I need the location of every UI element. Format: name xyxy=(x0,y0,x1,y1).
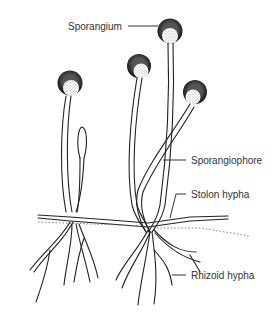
leader-stolon xyxy=(170,194,186,218)
sporangium-top xyxy=(158,19,183,45)
sporangium-left xyxy=(58,71,83,97)
label-stolon-hypha: Stolon hypha xyxy=(191,189,250,200)
label-sporangiophore: Sporangiophore xyxy=(191,155,263,166)
sporangium-middle xyxy=(127,54,151,79)
label-sporangium: Sporangium xyxy=(68,21,122,32)
sporangium-right xyxy=(183,80,207,105)
sporangiophore-stalks xyxy=(62,43,195,232)
label-rhizoid-hypha: Rhizoid hypha xyxy=(191,270,255,281)
rhizoid-hyphae xyxy=(30,222,200,305)
rhizopus-diagram: Sporangium Sporangiophore Stolon hypha R… xyxy=(0,0,277,318)
